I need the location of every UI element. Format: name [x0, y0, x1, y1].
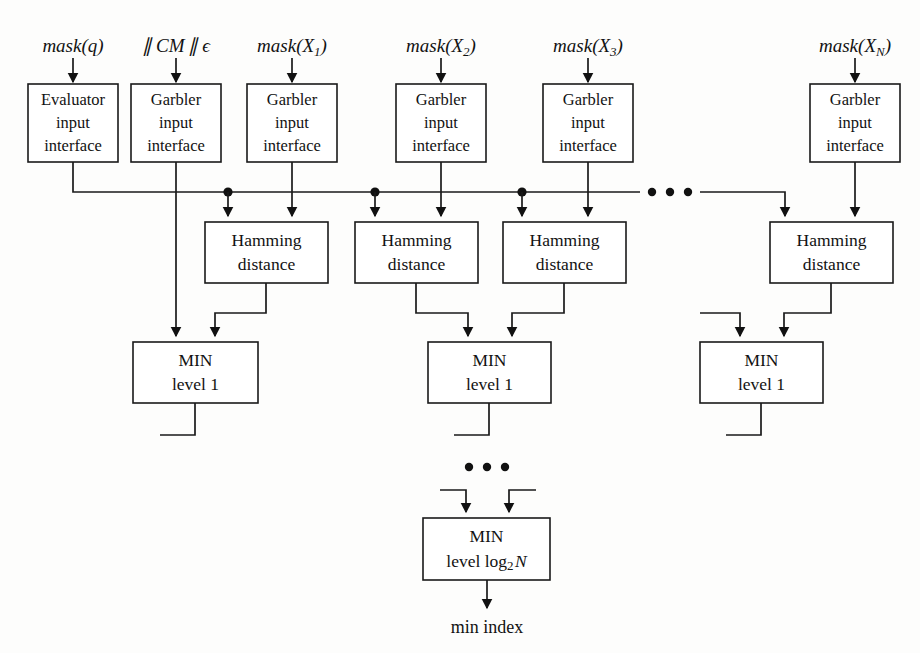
top-input-label-mask-q: mask(q)	[42, 35, 103, 57]
wire-hamming-n-to-min-l1-c	[784, 283, 831, 336]
hamming-to-min-wires	[215, 283, 831, 336]
iface-garbler-n-line1: Garbler	[830, 90, 881, 109]
top-input-label-mask-x3: mask(X3)	[553, 35, 623, 59]
ellipsis-min-tree-dot-2	[483, 463, 491, 471]
wire-hamming-2-to-min-l1-b	[416, 283, 468, 336]
wire-left-into-min-final	[440, 490, 466, 512]
iface-evaluator-line1: Evaluator	[41, 90, 106, 109]
iface-garbler-1-line2: input	[159, 113, 193, 132]
iface-garbler-4-line2: input	[571, 113, 605, 132]
iface-garbler-n-line2: input	[838, 113, 872, 132]
hamming-n-line2: distance	[803, 254, 861, 274]
iface-garbler-1-line1: Garbler	[151, 90, 202, 109]
wire-elided-hamming-to-min-l1-c	[700, 313, 740, 336]
min-l1-c-line2: level 1	[738, 374, 785, 394]
iface-garbler-2: Garbler input interface	[247, 84, 337, 162]
iface-garbler-n: Garbler input interface	[810, 84, 900, 162]
top-input-mask-x3: mask(X3)	[553, 35, 623, 82]
wire-right-into-min-final	[509, 490, 536, 512]
min-index-label: min index	[451, 617, 524, 637]
min-l1-b-line2: level 1	[466, 374, 513, 394]
iface-evaluator: Evaluator input interface	[28, 84, 118, 162]
stub-min-l1-b-out	[454, 403, 489, 435]
stub-min-l1-a-out	[160, 403, 195, 435]
min-l1-b-line1: MIN	[472, 350, 506, 370]
architecture-diagram: mask(q) ∥ CM ∥ ϵ mask(X1) mask(X2) mask(…	[0, 0, 920, 653]
iface-garbler-2-line3: interface	[263, 136, 321, 155]
hamming-3-line2: distance	[536, 254, 594, 274]
figure-page: mask(q) ∥ CM ∥ ϵ mask(X1) mask(X2) mask(…	[0, 0, 920, 653]
hamming-1-line1: Hamming	[232, 230, 302, 250]
top-input-labels: mask(q) ∥ CM ∥ ϵ mask(X1) mask(X2) mask(…	[42, 35, 891, 82]
ellipsis-bus-dot-1	[648, 188, 656, 196]
hamming-2: Hamming distance	[355, 222, 478, 283]
evaluator-broadcast-bus	[73, 162, 785, 216]
hamming-2-line2: distance	[388, 254, 446, 274]
top-input-label-mask-x2: mask(X2)	[406, 35, 476, 59]
iface-garbler-1-line3: interface	[147, 136, 205, 155]
iface-garbler-3: Garbler input interface	[396, 84, 486, 162]
iface-garbler-1: Garbler input interface	[131, 84, 221, 162]
ellipsis-bus-dot-2	[666, 188, 674, 196]
min-final: MIN level log2 N	[423, 518, 550, 580]
interface-row: Evaluator input interface Garbler input …	[28, 84, 900, 162]
min-level1-output-stubs	[160, 403, 761, 435]
min-l1-a: MIN level 1	[133, 342, 258, 403]
min-l1-c-line1: MIN	[744, 350, 778, 370]
hamming-3: Hamming distance	[503, 222, 626, 283]
iface-garbler-2-line1: Garbler	[267, 90, 318, 109]
ellipsis-bus-dot-3	[684, 188, 692, 196]
hamming-n-line1: Hamming	[797, 230, 867, 250]
iface-garbler-2-line2: input	[275, 113, 309, 132]
iface-garbler-3-line1: Garbler	[416, 90, 467, 109]
iface-garbler-4: Garbler input interface	[543, 84, 633, 162]
bus-main-segment	[73, 162, 640, 192]
iface-garbler-3-line2: input	[424, 113, 458, 132]
min-l1-a-line2: level 1	[172, 374, 219, 394]
hamming-2-line1: Hamming	[382, 230, 452, 250]
top-input-mask-q: mask(q)	[42, 35, 103, 82]
top-input-mask-xn: mask(XN)	[819, 35, 891, 82]
hamming-1-line2: distance	[238, 254, 296, 274]
min-l1-a-line1: MIN	[178, 350, 212, 370]
wire-hamming-1-to-min-l1-a	[215, 283, 266, 336]
iface-garbler-3-line3: interface	[412, 136, 470, 155]
min-level1-row: MIN level 1 MIN level 1 MIN level 1	[133, 342, 823, 403]
top-input-mask-x2: mask(X2)	[406, 35, 476, 82]
hamming-1: Hamming distance	[205, 222, 328, 283]
top-input-cm-epsilon: ∥ CM ∥ ϵ	[142, 35, 211, 82]
top-input-mask-x1: mask(X1)	[257, 35, 327, 82]
min-final-output: min index	[451, 580, 524, 637]
iface-evaluator-line3: interface	[44, 136, 102, 155]
bus-tail-segment	[700, 192, 785, 216]
iface-garbler-4-line3: interface	[559, 136, 617, 155]
hamming-3-line1: Hamming	[530, 230, 600, 250]
ellipsis-min-tree-dot-3	[501, 463, 509, 471]
min-final-input-wires	[440, 490, 536, 512]
min-final-line2: level log2 N	[446, 551, 528, 573]
wire-hamming-3-to-min-l1-b	[512, 283, 564, 336]
ellipsis-min-tree	[465, 463, 509, 471]
stub-min-l1-c-out	[726, 403, 761, 435]
iface-garbler-4-line1: Garbler	[563, 90, 614, 109]
top-input-label-mask-xn: mask(XN)	[819, 35, 891, 59]
hamming-n: Hamming distance	[770, 222, 893, 283]
top-input-label-mask-x1: mask(X1)	[257, 35, 327, 59]
min-l1-c: MIN level 1	[700, 342, 823, 403]
min-l1-b: MIN level 1	[428, 342, 551, 403]
hamming-row: Hamming distance Hamming distance Hammin…	[205, 222, 893, 283]
iface-garbler-n-line3: interface	[826, 136, 884, 155]
ellipsis-bus	[648, 188, 692, 196]
min-final-line1: MIN	[469, 526, 503, 546]
top-input-label-cm-epsilon: ∥ CM ∥ ϵ	[142, 35, 211, 57]
ellipsis-min-tree-dot-1	[465, 463, 473, 471]
iface-evaluator-line2: input	[56, 113, 90, 132]
